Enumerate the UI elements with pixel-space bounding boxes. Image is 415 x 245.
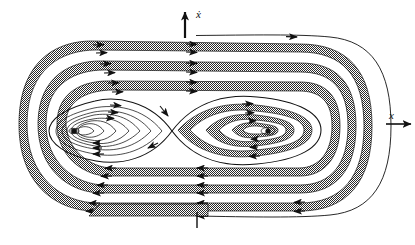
- bottom-center-fill-block: [89, 204, 208, 216]
- right-well-band-3: [232, 123, 278, 138]
- phase-portrait-figure: ẋ x: [0, 0, 415, 245]
- left-center-fixed-point: [71, 128, 76, 133]
- flow-arrow-lw-top-2: [108, 112, 118, 113]
- left-well-orbit-5: [76, 121, 116, 141]
- right-center-fixed-point: [265, 128, 270, 133]
- flow-arrow-sep-ur: [160, 106, 168, 116]
- right-well-band-group: [178, 104, 312, 157]
- right-well-band-2: [206, 114, 294, 146]
- phase-portrait-canvas: [0, 0, 415, 245]
- xdot-axis-label: ẋ: [196, 9, 201, 20]
- outer-orbit-band-group: [19, 41, 372, 211]
- left-well-orbit-4: [71, 118, 129, 143]
- flow-arrow-lw-top-1: [110, 105, 121, 106]
- x-axis-label: x: [389, 110, 394, 121]
